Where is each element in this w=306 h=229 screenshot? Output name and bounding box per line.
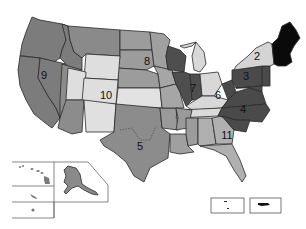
alaska-shape[interactable]: [64, 166, 98, 195]
region-label-5: 5: [137, 140, 143, 152]
region-label-6: 6: [215, 89, 221, 101]
region-label-8: 8: [144, 55, 150, 67]
guam-shape[interactable]: [30, 194, 37, 199]
region-label-4: 4: [240, 103, 246, 115]
region-3[interactable]: [232, 66, 270, 92]
region-label-7: 7: [190, 82, 196, 94]
region-label-10: 10: [100, 89, 112, 101]
region-label-2: 2: [254, 50, 260, 62]
region-label-3: 3: [243, 70, 249, 82]
region-label-9: 9: [41, 69, 47, 81]
american-samoa-shape[interactable]: [31, 208, 34, 211]
region-1[interactable]: [272, 22, 300, 66]
region-label-11: 11: [221, 129, 232, 141]
caribbean-inset: [211, 198, 281, 213]
virgin-islands-box[interactable]: [211, 198, 244, 213]
us-regions-map: 9 10 8 5 7 6 3 2 4 11: [0, 0, 306, 229]
pacific-inset: [12, 162, 108, 218]
hawaii-shape[interactable]: [19, 165, 50, 184]
